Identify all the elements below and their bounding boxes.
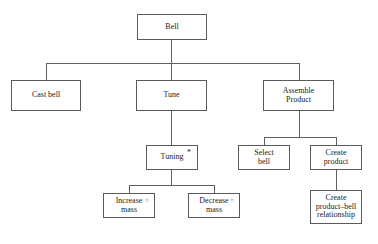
node-increase-mass-label: Increase mass (114, 197, 145, 215)
edge-bus-to-cast-bell (46, 63, 47, 80)
node-assemble-product-label: Assemble Product (281, 87, 317, 105)
edge-bus-to-tune (171, 63, 172, 80)
edge-bus-to-create-product (336, 137, 337, 145)
node-tune[interactable]: Tune (136, 80, 207, 111)
diagram-canvas: Bell Cast bell Tune Assemble Product Tun… (0, 0, 378, 244)
node-create-product-bell-relationship-label: Create product–bell relationship (314, 194, 358, 221)
node-assemble-product[interactable]: Assemble Product (263, 80, 334, 111)
edge-bus-to-increase-mass (129, 185, 130, 193)
edge-bus-to-select-bell (264, 137, 265, 145)
edge-assemble-stem (299, 111, 300, 137)
edge-tune-to-tuning (171, 111, 172, 145)
edge-tuning-stem (171, 170, 172, 185)
edge-assemble-bus (264, 137, 337, 138)
node-tuning-label: Tuning (159, 153, 186, 162)
node-cast-bell[interactable]: Cast bell (11, 80, 81, 111)
selection-circle-marker-increase-mass: ○ (145, 197, 149, 203)
edge-root-bus (46, 63, 300, 64)
node-bell-label: Bell (163, 23, 180, 32)
node-decrease-mass-label: Decrease mass (197, 197, 230, 215)
node-tune-label: Tune (161, 91, 181, 100)
node-bell[interactable]: Bell (137, 14, 207, 40)
edge-create-product-to-relationship (336, 170, 337, 190)
node-create-product-label: Create product (322, 149, 350, 167)
edge-bell-stem (171, 40, 172, 63)
node-cast-bell-label: Cast bell (30, 91, 62, 100)
node-create-product-bell-relationship[interactable]: Create product–bell relationship (310, 190, 362, 224)
edge-tuning-bus (129, 185, 215, 186)
node-create-product[interactable]: Create product (310, 145, 362, 170)
node-select-bell-label: Select bell (252, 149, 276, 167)
selection-circle-marker-decrease-mass: ○ (230, 197, 234, 203)
repetition-star-marker-tuning: * (187, 149, 191, 157)
edge-bus-to-decrease-mass (214, 185, 215, 193)
edge-bus-to-assemble (299, 63, 300, 80)
node-select-bell[interactable]: Select bell (238, 145, 290, 170)
